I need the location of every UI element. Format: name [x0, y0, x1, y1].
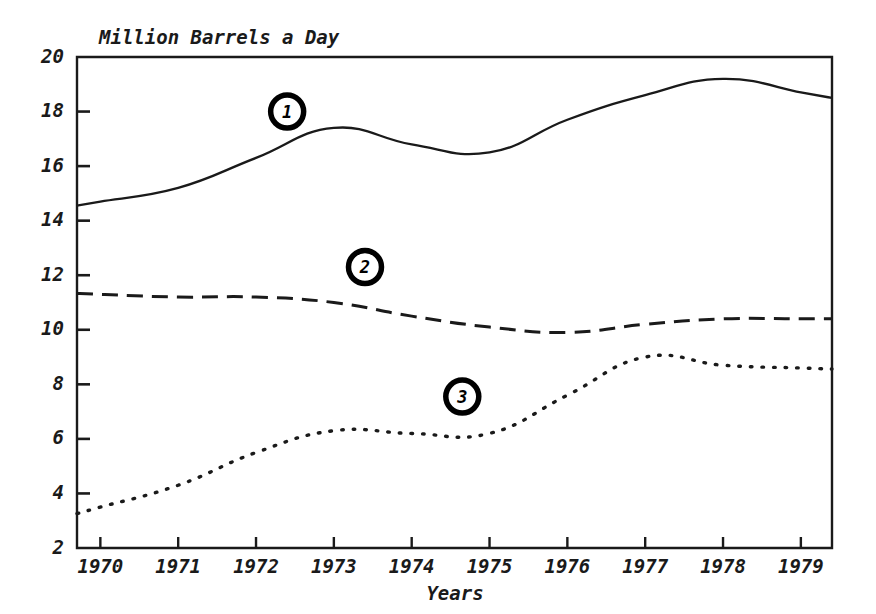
- x-tick-label: 1972: [233, 555, 279, 577]
- series-marker-2: 2: [348, 251, 381, 284]
- y-tick-label: 6: [53, 426, 64, 448]
- chart-figure: 2468101214161820 19701971197219731974197…: [0, 0, 876, 614]
- y-tick-label: 18: [41, 99, 64, 121]
- y-axis-title: Million Barrels a Day: [98, 26, 340, 48]
- line-chart-canvas: 2468101214161820 19701971197219731974197…: [0, 0, 876, 614]
- marker-digit-label: 1: [282, 102, 292, 122]
- x-tick-label: 1979: [778, 555, 824, 577]
- x-tick-label: 1977: [622, 555, 668, 577]
- y-tick-label: 8: [53, 372, 64, 394]
- y-tick-label: 16: [41, 154, 64, 176]
- series-marker-1: 1: [271, 95, 304, 128]
- marker-digit-label: 2: [359, 257, 370, 277]
- marker-digit-label: 3: [456, 387, 467, 407]
- y-tick-label: 14: [41, 208, 64, 230]
- x-tick-label: 1973: [311, 555, 357, 577]
- x-tick-label: 1970: [77, 555, 123, 577]
- y-tick-label: 10: [41, 317, 64, 339]
- x-tick-label: 1974: [389, 555, 435, 577]
- series-marker-3: 3: [446, 380, 479, 413]
- page-root: 2468101214161820 19701971197219731974197…: [0, 0, 876, 614]
- x-tick-label: 1971: [155, 555, 201, 577]
- y-tick-label: 12: [41, 263, 64, 285]
- x-tick-label: 1976: [544, 555, 590, 577]
- y-tick-label: 20: [40, 45, 64, 67]
- y-tick-label: 2: [52, 536, 64, 558]
- x-axis-title: Years: [426, 582, 483, 604]
- y-tick-label: 4: [53, 481, 64, 503]
- chart-background: [0, 0, 876, 614]
- x-tick-label: 1978: [700, 555, 746, 577]
- x-tick-label: 1975: [467, 555, 513, 577]
